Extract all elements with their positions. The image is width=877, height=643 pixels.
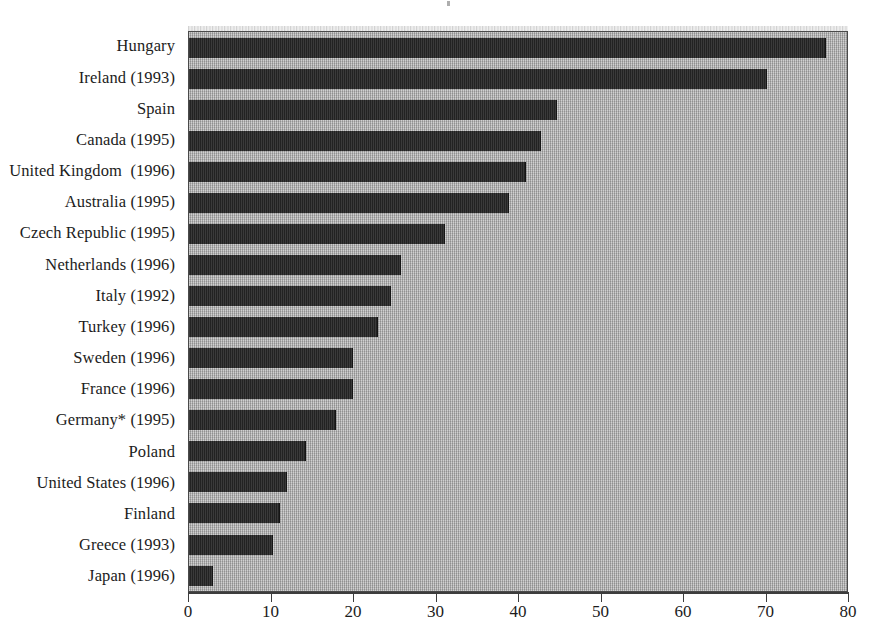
bar <box>189 100 557 120</box>
bar <box>189 38 826 58</box>
bar-series <box>189 32 847 591</box>
category-label: Hungary <box>0 31 182 62</box>
bar-row <box>189 249 847 280</box>
bar-row <box>189 125 847 156</box>
category-label: Greece (1993) <box>0 530 182 561</box>
category-label: Finland <box>0 499 182 530</box>
axis-tick <box>436 594 437 602</box>
bar <box>189 503 280 523</box>
axis-tick <box>848 594 849 602</box>
bar-row <box>189 94 847 125</box>
category-label: Australia (1995) <box>0 187 182 218</box>
category-label: Turkey (1996) <box>0 312 182 343</box>
bar <box>189 535 273 555</box>
bar-row <box>189 312 847 343</box>
category-axis-labels: HungaryIreland (1993)SpainCanada (1995)U… <box>0 31 182 592</box>
axis-tick-label: 80 <box>840 603 857 620</box>
horizontal-bar-chart: HungaryIreland (1993)SpainCanada (1995)U… <box>0 0 877 643</box>
bar <box>189 379 353 399</box>
bar-row <box>189 281 847 312</box>
bar-row <box>189 498 847 529</box>
axis-tick <box>601 594 602 602</box>
category-label: Poland <box>0 436 182 467</box>
category-label: Ireland (1993) <box>0 62 182 93</box>
bar <box>189 348 353 368</box>
bar <box>189 410 336 430</box>
category-label: Japan (1996) <box>0 561 182 592</box>
axis-tick <box>353 594 354 602</box>
axis-tick-label: 60 <box>675 603 692 620</box>
axis-tick <box>683 594 684 602</box>
axis-tick-label: 10 <box>262 603 279 620</box>
category-label: Canada (1995) <box>0 125 182 156</box>
bar-row <box>189 560 847 591</box>
bar-row <box>189 187 847 218</box>
bar <box>189 193 509 213</box>
bar-row <box>189 343 847 374</box>
axis-tick-label: 40 <box>510 603 527 620</box>
category-label: Sweden (1996) <box>0 343 182 374</box>
axis-tick-label: 70 <box>757 603 774 620</box>
bar-row <box>189 374 847 405</box>
bar <box>189 472 287 492</box>
category-label: Italy (1992) <box>0 280 182 311</box>
bar-row <box>189 156 847 187</box>
bar <box>189 286 391 306</box>
bar-row <box>189 63 847 94</box>
value-axis: 01020304050607080 <box>188 592 849 642</box>
bar <box>189 441 306 461</box>
axis-tick-label: 50 <box>592 603 609 620</box>
category-label: Czech Republic (1995) <box>0 218 182 249</box>
bar-row <box>189 405 847 436</box>
category-label: Netherlands (1996) <box>0 249 182 280</box>
axis-tick <box>188 594 189 602</box>
axis-tick <box>271 594 272 602</box>
category-label: United Kingdom (1996) <box>0 156 182 187</box>
bar-row <box>189 32 847 63</box>
axis-tick-label: 30 <box>427 603 444 620</box>
bar <box>189 566 213 586</box>
bar <box>189 255 401 275</box>
axis-tick-label: 20 <box>345 603 362 620</box>
category-label: France (1996) <box>0 374 182 405</box>
bar <box>189 162 526 182</box>
bar <box>189 69 767 89</box>
bar <box>189 224 445 244</box>
plot-area <box>188 31 848 592</box>
category-label: Spain <box>0 93 182 124</box>
axis-tick-label: 0 <box>184 603 193 620</box>
bar-row <box>189 218 847 249</box>
bar <box>189 317 378 337</box>
category-label: United States (1996) <box>0 467 182 498</box>
bar-row <box>189 467 847 498</box>
scan-artifact-speck <box>447 1 450 6</box>
category-label: Germany* (1995) <box>0 405 182 436</box>
axis-tick <box>518 594 519 602</box>
axis-tick <box>766 594 767 602</box>
bar-row <box>189 436 847 467</box>
bar <box>189 131 541 151</box>
bar-row <box>189 529 847 560</box>
